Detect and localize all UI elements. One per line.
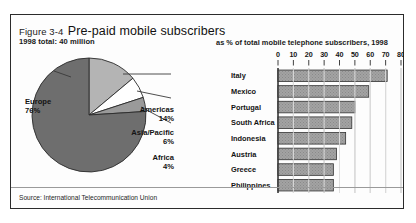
bar-category-label: South Africa: [231, 118, 276, 127]
source-divider: [11, 187, 403, 188]
bar-xtick-label: 20: [305, 50, 313, 59]
bar-category-label: Austria: [231, 150, 257, 159]
pie-label-africa: Africa 4%: [111, 153, 174, 172]
figure-number: Figure 3-4: [19, 26, 63, 37]
bar-category-label: Indonesia: [231, 134, 266, 143]
bar-series: [278, 68, 401, 193]
pie-label-asia-pacific-value: 6%: [163, 137, 174, 146]
bar-category-labels: ItalyMexicoPortugalSouth AfricaIndonesia…: [231, 71, 276, 189]
bar-portugal: [278, 101, 355, 113]
bar-category-label: Mexico: [231, 87, 257, 96]
bar-xtick-label: 70: [382, 50, 390, 59]
pie-label-europe-name: Europe: [25, 97, 51, 106]
figure-title-text: Pre-paid mobile subscribers: [68, 24, 226, 38]
bar-xtick-label: 40: [336, 50, 344, 59]
pie-chart: Europe 76% Americas 14% Asia/Pacific 6% …: [11, 45, 216, 185]
bar-xtick-label: 60: [366, 50, 374, 59]
pie-label-asia-pacific: Asia/Pacific 6%: [103, 128, 174, 147]
bar-category-label: Greece: [231, 165, 256, 174]
bar-category-label: Philippines: [231, 181, 270, 190]
bar-chart: 01020304050607080 ItalyMexicoPortugalSou…: [216, 47, 404, 195]
bar-chart-subtitle: as % of total mobile telephone subscribe…: [216, 38, 388, 47]
bar-italy: [278, 70, 387, 82]
bar-philippines: [278, 179, 333, 191]
pie-label-americas-name: Americas: [140, 105, 174, 114]
bar-xtick-label: 10: [289, 50, 297, 59]
bar-axis-ticks: 01020304050607080: [276, 50, 404, 66]
bar-category-label: Portugal: [231, 103, 261, 112]
pie-label-americas-value: 14%: [159, 114, 174, 123]
pie-label-africa-name: Africa: [152, 153, 174, 162]
bar-category-label: Italy: [231, 71, 247, 80]
bar-south-africa: [278, 117, 352, 129]
bar-chart-svg: 01020304050607080 ItalyMexicoPortugalSou…: [216, 47, 404, 195]
bar-austria: [278, 148, 336, 160]
bar-xtick-label: 30: [320, 50, 328, 59]
bar-indonesia: [278, 133, 346, 145]
pie-label-africa-value: 4%: [163, 162, 174, 171]
pie-label-europe: Europe 76%: [25, 97, 51, 116]
pie-label-asia-pacific-name: Asia/Pacific: [131, 128, 174, 137]
bar-xtick-label: 0: [276, 50, 280, 59]
bar-greece: [278, 164, 333, 176]
figure-frame: Figure 3-4 Pre-paid mobile subscribers 1…: [10, 14, 404, 209]
source-note: Source: International Telecommunication …: [19, 194, 157, 201]
pie-label-europe-value: 76%: [25, 106, 40, 115]
bar-xtick-label: 50: [351, 50, 359, 59]
pie-label-americas: Americas 14%: [111, 105, 174, 124]
bar-xtick-label: 80: [397, 50, 404, 59]
